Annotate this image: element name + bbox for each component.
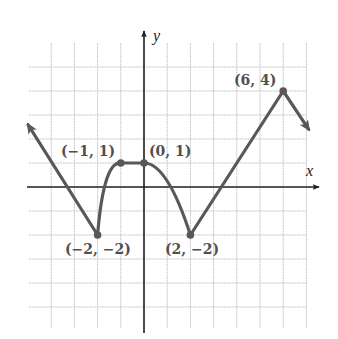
label-point-6-4: (6, 4) bbox=[234, 72, 276, 88]
x-axis-label: x bbox=[305, 162, 313, 179]
label-point-neg1-1: (−1, 1) bbox=[61, 143, 115, 159]
point-marker bbox=[187, 231, 195, 239]
point-marker bbox=[117, 159, 125, 167]
y-axis-label: y bbox=[151, 27, 161, 45]
label-point-0-1: (0, 1) bbox=[149, 143, 191, 159]
point-marker bbox=[140, 159, 148, 167]
label-point-neg2-neg2: (−2, −2) bbox=[65, 241, 131, 257]
label-point-2-neg2: (2, −2) bbox=[165, 241, 219, 257]
point-marker bbox=[94, 231, 102, 239]
function-graph: x y (−1, 1) (0, 1) (−2, −2) (2, −2) (6, … bbox=[0, 0, 338, 339]
point-marker bbox=[279, 87, 287, 95]
